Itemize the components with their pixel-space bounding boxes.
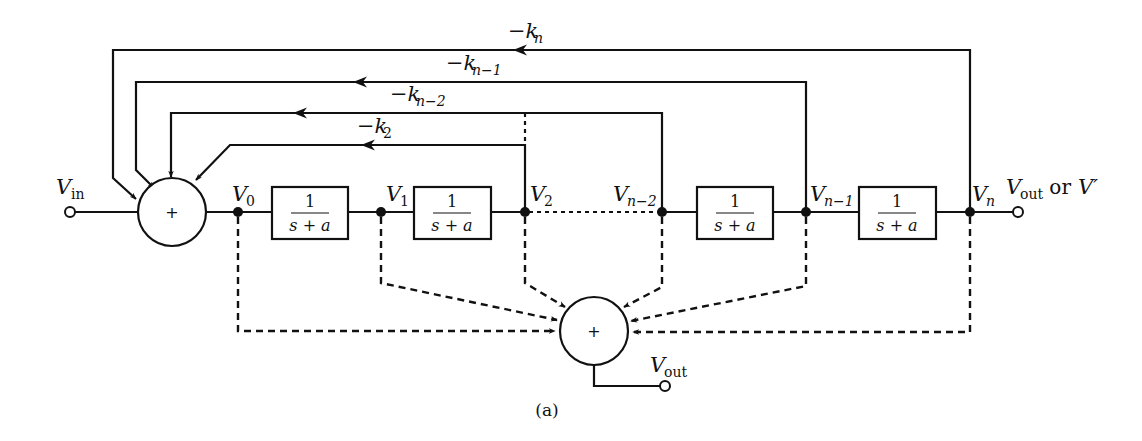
label-sub: n [986,193,995,209]
integrator-block-1: 1 s + a [272,187,348,239]
block-denominator: s + a [431,216,472,235]
label-vn-2: V n−2 [613,182,657,209]
integrator-block-2: 1 s + a [414,187,491,239]
input-terminal [65,207,75,217]
tap-path-v2 [525,217,565,307]
node-v2 [520,207,530,217]
node-v1 [376,207,386,217]
label-sub: n−2 [416,93,446,109]
node-vn-2 [657,207,667,217]
label-sub: in [71,186,85,202]
label-or: or [1043,175,1077,199]
label-vout-sum: V out [650,353,687,380]
tap-path-vn-2 [624,217,662,307]
label-alt: V′ [1078,175,1098,199]
node-vn-1 [801,207,811,217]
label-sub: n−1 [472,62,502,78]
label-sub: n−1 [824,193,854,209]
label-vin: V in [56,175,85,202]
label-sub: 0 [246,193,255,209]
output-summer-plus: + [587,322,600,341]
block-numerator: 1 [730,192,740,211]
label-gain-k2: −k 2 [357,114,392,141]
block-numerator: 1 [305,192,315,211]
label-gain-kn-2: −k n−2 [390,82,446,109]
label-sub: out [664,364,687,380]
node-v0 [233,207,243,217]
label-vn: V n [972,182,995,209]
block-numerator: 1 [447,192,457,211]
block-denominator: s + a [289,216,330,235]
integrator-block-3: 1 s + a [697,187,773,239]
label-sub: 2 [383,125,392,141]
label-sub: 2 [544,193,553,209]
output-sum-terminal [660,381,670,391]
block-denominator: s + a [876,216,917,235]
output-terminal [1013,207,1023,217]
block-numerator: 1 [892,192,902,211]
label-v0: V 0 [232,182,255,209]
label-v1: V 1 [386,182,409,209]
figure-caption: (a) [535,400,558,420]
integrator-block-4: 1 s + a [859,187,936,239]
label-sub: n−2 [627,193,657,209]
input-summer-plus: + [165,203,178,222]
state-variable-filter-diagram: + 1 s + a 1 s + a 1 s + a 1 s + a [0,0,1142,441]
label-gain-kn-1: −k n−1 [446,51,502,78]
label-gain-kn: −k n [508,19,543,46]
label-sub: n [534,30,543,46]
block-denominator: s + a [714,216,755,235]
label-vn-1: V n−1 [810,182,854,209]
label-sub: out [1020,186,1043,202]
label-v2: V 2 [530,182,553,209]
node-vn [965,207,975,217]
label-vout-or-vprime: V out or V′ [1006,175,1098,202]
label-sub: 1 [400,193,409,209]
